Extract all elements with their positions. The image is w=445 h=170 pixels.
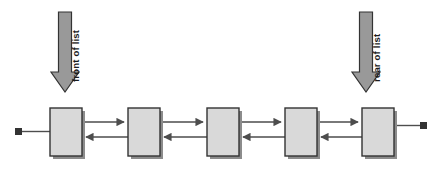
node-box (285, 108, 317, 156)
link-3-4 (239, 122, 285, 137)
list-node-4 (285, 108, 320, 159)
terminator-right-square (420, 122, 427, 129)
link-1-2 (82, 122, 128, 137)
front-arrow-shape (51, 12, 79, 92)
list-node-5 (362, 108, 397, 159)
list-node-2 (128, 108, 163, 159)
link-4-5 (317, 122, 362, 137)
link-2-3 (160, 122, 207, 137)
node-box (207, 108, 239, 156)
diagram-canvas (0, 0, 445, 170)
rear-arrow-shape (352, 12, 380, 92)
terminator-right-group (394, 122, 427, 129)
doubly-linked-list-diagram: front of list rear of list (0, 0, 445, 170)
terminator-left-group (15, 128, 50, 135)
list-node-3 (207, 108, 242, 159)
rear-pointer-arrow (352, 12, 380, 92)
terminator-left-square (15, 128, 22, 135)
list-node-1 (50, 108, 85, 159)
node-box (128, 108, 160, 156)
front-pointer-arrow (51, 12, 79, 92)
node-box (362, 108, 394, 156)
node-box (50, 108, 82, 156)
